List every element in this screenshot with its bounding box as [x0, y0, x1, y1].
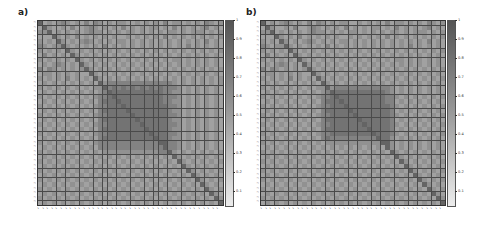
colorbar-tick-label: 0.8 — [458, 56, 464, 60]
heatmap-cell — [121, 95, 125, 99]
heatmap-cell — [298, 30, 302, 34]
heatmap-cell — [427, 49, 431, 53]
heatmap-cell — [395, 173, 399, 177]
heatmap-cell — [182, 62, 186, 66]
heatmap-cell — [209, 104, 213, 108]
heatmap-cell — [330, 201, 334, 205]
heatmap-cell — [413, 136, 417, 140]
heatmap-cell — [436, 150, 440, 154]
heatmap-cell — [381, 182, 385, 186]
heatmap-cell — [293, 81, 297, 85]
heatmap-cell — [372, 62, 376, 66]
heatmap-cell — [441, 72, 445, 76]
heatmap-cell — [89, 155, 93, 159]
heatmap-cell — [135, 141, 139, 145]
heatmap-cell — [344, 109, 348, 113]
heatmap-cell — [94, 30, 98, 34]
heatmap-cell — [302, 182, 306, 186]
heatmap-cell — [214, 178, 218, 182]
heatmap-cell — [353, 76, 357, 80]
heatmap-cell — [279, 118, 283, 122]
heatmap-cell — [367, 159, 371, 163]
heatmap-cell — [200, 122, 204, 126]
heatmap-cell — [330, 58, 334, 62]
heatmap-cell — [270, 104, 274, 108]
heatmap-cell — [376, 173, 380, 177]
heatmap-cell — [200, 113, 204, 117]
heatmap-cell — [57, 53, 61, 57]
heatmap-cell — [94, 118, 98, 122]
heatmap-cell — [135, 113, 139, 117]
heatmap-cell — [316, 122, 320, 126]
heatmap-cell — [432, 49, 436, 53]
heatmap-cell — [427, 141, 431, 145]
heatmap-cell — [209, 164, 213, 168]
heatmap-cell — [270, 141, 274, 145]
heatmap-cell — [191, 35, 195, 39]
heatmap-cell — [436, 21, 440, 25]
heatmap-cell — [182, 86, 186, 90]
heatmap-cell — [57, 58, 61, 62]
heatmap-cell — [159, 132, 163, 136]
heatmap-cell — [168, 104, 172, 108]
heatmap-cell — [140, 150, 144, 154]
heatmap-cell — [154, 145, 158, 149]
heatmap-cell — [84, 58, 88, 62]
heatmap-cell — [302, 159, 306, 163]
heatmap-cell — [404, 132, 408, 136]
heatmap-cell — [112, 81, 116, 85]
heatmap-cell — [436, 118, 440, 122]
heatmap-cell — [214, 141, 218, 145]
heatmap-cell — [57, 132, 61, 136]
heatmap-cell — [344, 132, 348, 136]
heatmap-cell — [84, 49, 88, 53]
heatmap-cell — [108, 67, 112, 71]
heatmap-cell — [159, 26, 163, 30]
heatmap-cell — [89, 182, 93, 186]
heatmap-cell — [172, 113, 176, 117]
heatmap-cell — [376, 132, 380, 136]
heatmap-cell — [399, 159, 403, 163]
heatmap-cell — [149, 127, 153, 131]
heatmap-cell — [321, 169, 325, 173]
heatmap-cell — [108, 90, 112, 94]
heatmap-cell — [84, 95, 88, 99]
heatmap-cell — [270, 159, 274, 163]
heatmap-cell — [140, 53, 144, 57]
heatmap-cell — [168, 39, 172, 43]
heatmap-cell — [177, 164, 181, 168]
heatmap-cell — [205, 118, 209, 122]
heatmap-cell — [126, 113, 130, 117]
heatmap-cell — [307, 201, 311, 205]
heatmap-cell — [52, 122, 56, 126]
heatmap-cell — [404, 127, 408, 131]
heatmap-cell — [66, 155, 70, 159]
heatmap-cell — [409, 62, 413, 66]
heatmap-cell — [339, 90, 343, 94]
heatmap-cell — [117, 173, 121, 177]
heatmap-cell — [98, 196, 102, 200]
heatmap-cell — [121, 104, 125, 108]
heatmap-cell — [205, 192, 209, 196]
heatmap-cell — [422, 145, 426, 149]
heatmap-cell — [339, 62, 343, 66]
heatmap-cell — [149, 86, 153, 90]
heatmap-cell — [289, 72, 293, 76]
heatmap-cell — [163, 62, 167, 66]
heatmap-cell — [344, 72, 348, 76]
heatmap-cell — [154, 122, 158, 126]
heatmap-cell — [70, 127, 74, 131]
heatmap-cell — [362, 109, 366, 113]
heatmap-cell — [61, 187, 65, 191]
colorbar-tick-label: 0.5 — [458, 113, 464, 117]
heatmap-cell — [196, 21, 200, 25]
heatmap-cell — [298, 136, 302, 140]
heatmap-cell — [103, 201, 107, 205]
heatmap-cell — [289, 196, 293, 200]
heatmap-cell — [135, 30, 139, 34]
heatmap-cell — [121, 127, 125, 131]
heatmap-cell — [339, 141, 343, 145]
heatmap-cell — [103, 182, 107, 186]
heatmap-cell — [140, 169, 144, 173]
heatmap-cell — [154, 113, 158, 117]
